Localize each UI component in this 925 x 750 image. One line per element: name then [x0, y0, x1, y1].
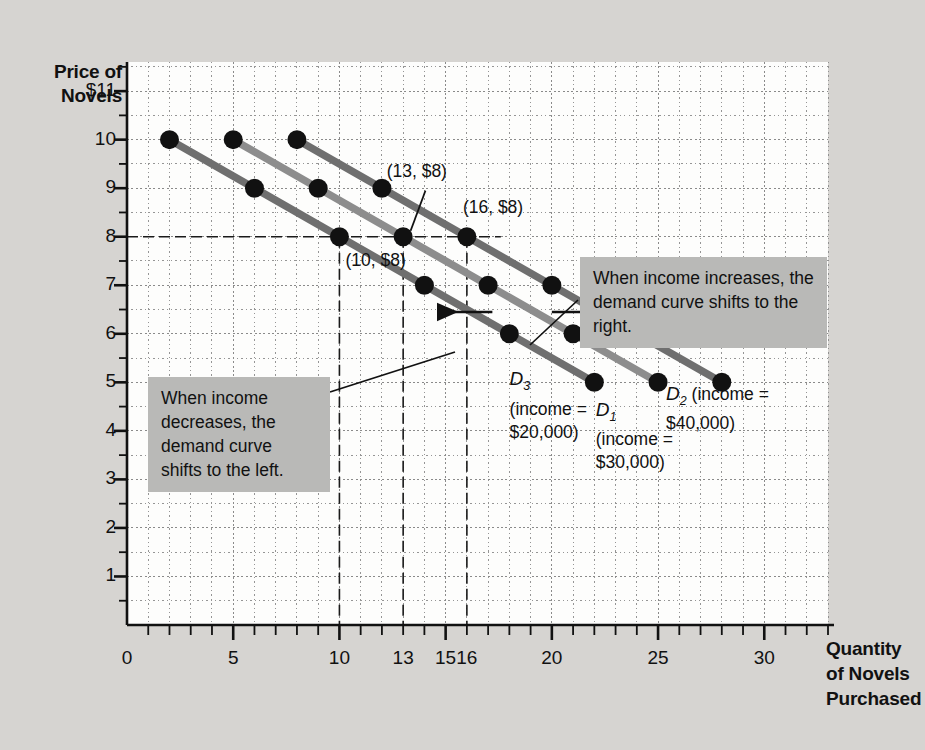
curve-income-line1: (income =	[596, 428, 673, 451]
y-tick-2: 2	[26, 516, 116, 538]
callout-income-decreases: When income decreases, the demand curve …	[148, 377, 330, 492]
x-tick-16: 16	[456, 647, 477, 669]
y-tick-4: 4	[26, 419, 116, 441]
curve-symbol: D	[666, 383, 680, 404]
data-point	[457, 227, 476, 246]
point-label-16-8: (16, $8)	[463, 197, 523, 218]
data-point	[224, 130, 243, 149]
data-point	[309, 179, 328, 198]
curve-subscript: 3	[523, 379, 530, 393]
y-tick-8: 8	[26, 225, 116, 247]
callout-income-increases: When income increases, the demand curve …	[580, 257, 827, 348]
data-point	[245, 179, 264, 198]
curve-label-D3: D3(income =$20,000)	[510, 367, 587, 444]
curve-symbol: D	[510, 368, 524, 389]
x-tick-20: 20	[541, 647, 562, 669]
x-tick-13: 13	[393, 647, 414, 669]
leader-lines	[330, 191, 578, 392]
data-point	[585, 373, 604, 392]
x-tick-25: 25	[647, 647, 668, 669]
data-point	[330, 227, 349, 246]
curve-income-line2: $20,000)	[510, 421, 587, 444]
y-tick-5: 5	[26, 370, 116, 392]
data-point	[415, 276, 434, 295]
y-tick-3: 3	[26, 467, 116, 489]
y-tick-1: 1	[26, 564, 116, 586]
point-label-13-8: (13, $8)	[387, 161, 447, 182]
x-tick-10: 10	[329, 647, 350, 669]
data-point	[649, 373, 668, 392]
data-point	[542, 276, 561, 295]
y-tick-7: 7	[26, 273, 116, 295]
data-point	[500, 324, 519, 343]
x-tick-30: 30	[754, 647, 775, 669]
y-tick-11: $11	[26, 79, 116, 101]
y-tick-6: 6	[26, 322, 116, 344]
curve-symbol: D	[596, 399, 610, 420]
curve-income-line2: $40,000)	[666, 412, 769, 435]
x-tick-5: 5	[228, 647, 239, 669]
data-point	[287, 130, 306, 149]
y-tick-10: 10	[26, 128, 116, 150]
curve-income-line1: (income =	[687, 384, 769, 404]
data-point	[479, 276, 498, 295]
curve-subscript: 2	[680, 393, 687, 407]
curve-income-line2: $30,000)	[596, 451, 673, 474]
x-tick-0: 0	[122, 647, 133, 669]
curve-label-D2: D2 (income =$40,000)	[666, 382, 769, 436]
curve-label-D1: D1(income =$30,000)	[596, 398, 673, 475]
point-label-10-8: (10, $8)	[345, 250, 405, 271]
y-tick-9: 9	[26, 176, 116, 198]
curve-subscript: 1	[609, 409, 616, 423]
x-tick-15: 15	[435, 647, 456, 669]
axes	[114, 62, 834, 640]
data-point	[394, 227, 413, 246]
data-point	[160, 130, 179, 149]
curve-income-line1: (income =	[510, 398, 587, 421]
